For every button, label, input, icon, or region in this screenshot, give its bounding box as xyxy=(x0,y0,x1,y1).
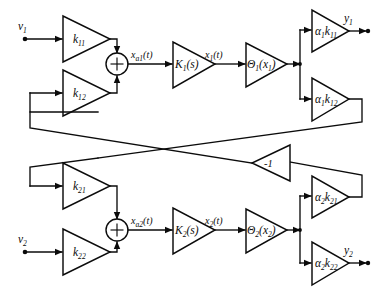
label-inverter: -1 xyxy=(264,158,273,169)
gain-block-k22 xyxy=(63,229,110,275)
output-terminal-y2 xyxy=(366,261,370,265)
diagram-canvas: v1 v2 y1 y2 k11 k12 k21 k22 α1 xyxy=(0,0,373,296)
wire-k11-to-sum1 xyxy=(110,39,117,53)
label-y2: y2 xyxy=(343,244,353,259)
block-diagram: v1 v2 y1 y2 k11 k12 k21 k22 α1 xyxy=(0,0,373,296)
label-y1: y1 xyxy=(343,12,353,27)
gain-block-k11 xyxy=(63,16,110,62)
wire-k21-to-sum2 xyxy=(110,186,117,219)
gain-block-k12 xyxy=(63,70,110,116)
label-v2: v2 xyxy=(18,233,27,248)
gain-block-k21 xyxy=(63,163,110,209)
label-v1: v1 xyxy=(18,20,27,35)
output-terminal-y1 xyxy=(366,29,370,33)
wire-inverter-cross-to-channel1 xyxy=(30,112,252,163)
wire-k22-to-sum2 xyxy=(110,242,117,252)
label-xa1: xa1(t) xyxy=(130,49,153,63)
label-xa2: xa2(t) xyxy=(130,215,153,229)
wire-k12-to-sum1 xyxy=(110,76,117,93)
